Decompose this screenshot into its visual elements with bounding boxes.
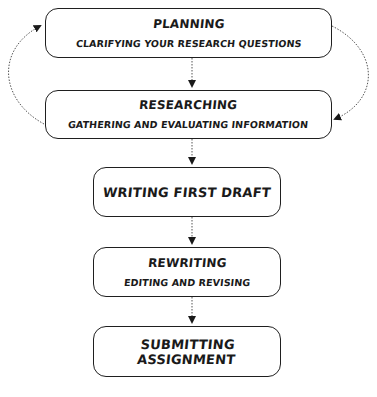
step-title: WRITING FIRST DRAFT (102, 185, 271, 200)
loop-arrow-right (332, 26, 368, 119)
step-planning: PLANNING CLARIFYING YOUR RESEARCH QUESTI… (45, 8, 332, 58)
step-rewriting: REWRITING EDITING AND REVISING (93, 247, 281, 297)
loop-arrow-left (9, 26, 44, 124)
step-submitting: SUBMITTING ASSIGNMENT (93, 326, 281, 377)
step-title: RESEARCHING (139, 98, 239, 113)
step-subtitle: EDITING AND REVISING (123, 276, 251, 289)
step-title: PLANNING (152, 17, 225, 32)
step-subtitle: CLARIFYING YOUR RESEARCH QUESTIONS (75, 37, 302, 50)
step-researching: RESEARCHING GATHERING AND EVALUATING INF… (45, 90, 332, 139)
step-subtitle: GATHERING AND EVALUATING INFORMATION (68, 118, 310, 131)
step-writing: WRITING FIRST DRAFT (93, 167, 281, 217)
step-title: REWRITING (147, 256, 227, 271)
step-title: SUBMITTING ASSIGNMENT (92, 337, 281, 367)
